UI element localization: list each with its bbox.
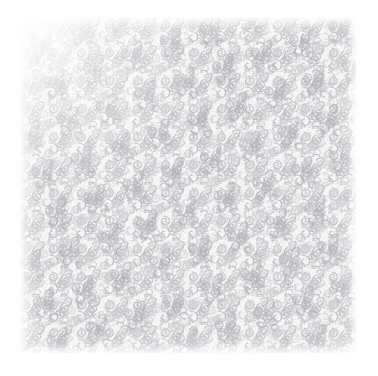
scroll-layer-3	[20, 17, 356, 353]
pattern-artwork	[20, 17, 356, 353]
pattern-swatch	[20, 17, 356, 353]
image-canvas	[0, 0, 378, 376]
